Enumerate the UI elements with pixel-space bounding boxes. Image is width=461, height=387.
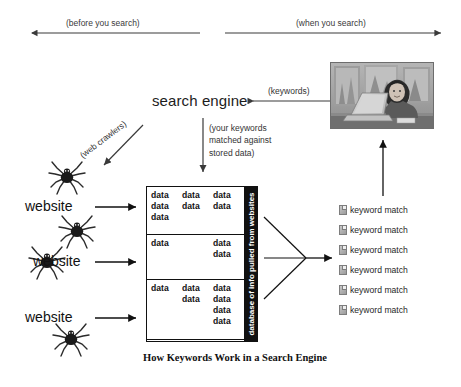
database-line: data data: [151, 294, 255, 305]
keyword-match-item[interactable]: keyword match: [339, 300, 408, 320]
database-line: data: [151, 249, 255, 260]
database-cell: data: [151, 238, 182, 249]
database-spine: database of info pulled from websites: [244, 187, 257, 341]
phase-label-before: (before you search): [66, 18, 140, 29]
database-cell: data: [213, 201, 244, 212]
database-cell: data: [213, 238, 244, 249]
database-line: data data data: [151, 201, 255, 212]
database-table: data data data data data data data data …: [146, 186, 258, 342]
keyword-match-item[interactable]: keyword match: [339, 260, 408, 280]
document-icon: [339, 225, 347, 235]
database-cell: data: [213, 283, 244, 294]
matching-note-line-2: matched against: [209, 134, 271, 146]
results-converge-lines: [264, 217, 306, 299]
website-label-1: website: [25, 198, 72, 214]
database-row-2: data data data: [147, 235, 257, 280]
keyword-match-label: keyword match: [350, 205, 408, 215]
database-line: data: [151, 316, 255, 327]
database-line: data: [151, 305, 255, 316]
keyword-match-label: keyword match: [350, 265, 408, 275]
database-cell: data: [213, 316, 244, 327]
database-row-1: data data data data data data data: [147, 187, 257, 235]
database-line: data data: [151, 238, 255, 249]
document-icon: [339, 205, 347, 215]
keyword-match-label: keyword match: [350, 305, 408, 315]
search-engine-title: search engine: [152, 92, 248, 109]
matching-note-line-1: (your keywords: [209, 122, 271, 134]
woman-using-laptop-photo-icon: [331, 63, 433, 128]
database-cell: data: [213, 249, 244, 260]
database-cell: data: [151, 212, 182, 223]
database-cell: data: [182, 294, 213, 305]
keywords-arrow-label: (keywords): [268, 86, 310, 97]
database-line: data: [151, 212, 255, 223]
database-cell: data: [182, 201, 213, 212]
phase-label-when: (when you search): [296, 18, 366, 29]
document-icon: [339, 245, 347, 255]
spider-crawler-1-icon: [48, 158, 86, 196]
spider-crawler-4-icon: [52, 320, 90, 358]
database-cell: data: [213, 294, 244, 305]
database-spine-label: database of info pulled from websites: [246, 192, 255, 335]
keyword-match-label: keyword match: [350, 285, 408, 295]
keyword-match-item[interactable]: keyword match: [339, 240, 408, 260]
diagram-caption: How Keywords Work in a Search Engine: [143, 352, 327, 363]
document-icon: [339, 265, 347, 275]
database-cell: data: [182, 283, 213, 294]
database-cell: data: [151, 190, 182, 201]
database-cell: data: [151, 201, 182, 212]
database-line: data data data: [151, 190, 255, 201]
keyword-match-list: keyword match keyword match keyword matc…: [339, 200, 408, 320]
web-crawlers-label: (web crawlers): [78, 119, 128, 160]
keyword-match-label: keyword match: [350, 245, 408, 255]
diagram-canvas: (before you search) (when you search) se…: [0, 0, 461, 387]
database-cell: data: [182, 190, 213, 201]
keyword-match-label: keyword match: [350, 225, 408, 235]
matching-note: (your keywords matched against stored da…: [209, 122, 271, 159]
user-photo: [330, 62, 434, 129]
database-cell: data: [151, 283, 182, 294]
database-cell: data: [213, 305, 244, 316]
website-label-2: website: [33, 253, 80, 269]
database-cell: data: [213, 190, 244, 201]
matching-note-line-3: stored data): [209, 147, 271, 159]
keyword-match-item[interactable]: keyword match: [339, 200, 408, 220]
database-line: data data data: [151, 283, 255, 294]
document-icon: [339, 285, 347, 295]
keyword-match-item[interactable]: keyword match: [339, 280, 408, 300]
keyword-match-item[interactable]: keyword match: [339, 220, 408, 240]
website-label-3: website: [25, 309, 72, 325]
document-icon: [339, 305, 347, 315]
database-row-3: data data data data data data data: [147, 280, 257, 340]
